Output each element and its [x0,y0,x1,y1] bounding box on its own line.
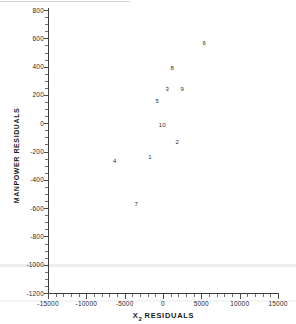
y-axis-major-tick [44,236,49,237]
scan-artifact-line [0,1,130,2]
y-axis-tick-label: 800 [33,7,44,14]
y-axis-major-tick [44,67,49,68]
y-axis-tick-label: -800 [30,233,44,240]
x-axis-minor-tick [109,294,110,297]
y-axis-tick-label: 400 [33,63,44,70]
scatter-point-label-10: 10 [159,122,166,128]
x-axis-minor-tick [71,294,72,297]
y-axis-minor-tick [45,279,48,280]
x-axis-tick-label: -15000 [37,300,58,307]
x-axis-minor-tick [117,294,118,297]
x-axis-minor-tick [102,294,103,297]
scatter-point-label-3: 3 [165,86,169,92]
y-axis-major-tick [44,38,49,39]
x-axis-minor-tick [148,294,149,297]
y-axis-minor-tick [45,102,48,103]
y-axis-tick-label: -200 [30,148,44,155]
y-axis-tick-label: -600 [30,205,44,212]
x-axis-major-tick [278,294,279,299]
x-axis-minor-tick [263,294,264,297]
y-axis-major-tick [44,265,49,266]
y-axis-tick-label: 600 [33,35,44,42]
x-axis-minor-tick [232,294,233,297]
y-axis-minor-tick [45,229,48,230]
x-axis-title-rest: RESIDUALS [145,311,195,320]
x-axis-minor-tick [178,294,179,297]
y-axis-minor-tick [45,286,48,287]
x-axis-tick-label: -10000 [76,300,97,307]
x-axis-tick-label: 0 [161,300,165,307]
y-axis-minor-tick [45,173,48,174]
x-axis-minor-tick [224,294,225,297]
y-axis-minor-tick [45,24,48,25]
x-axis-minor-tick [79,294,80,297]
y-axis-minor-tick [45,130,48,131]
partial-regression-plot: 8006004002000-200-400-600-800-1000-1200 … [0,0,296,324]
x-axis-tick-label: 15000 [268,300,287,307]
y-axis-tick-label: -1200 [26,290,44,297]
scatter-point-label-8: 8 [170,65,174,71]
x-axis-title-subscript: 2 [138,316,141,322]
y-axis-title: MANPOWER RESIDUALS [13,96,20,216]
y-axis-minor-tick [45,201,48,202]
x-axis-minor-tick [270,294,271,297]
x-axis-minor-tick [209,294,210,297]
y-axis-minor-tick [45,31,48,32]
scatter-point-label-7: 7 [134,201,138,207]
y-axis-minor-tick [45,60,48,61]
y-axis-major-tick [44,123,49,124]
y-axis-minor-tick [45,258,48,259]
y-axis-minor-tick [45,81,48,82]
x-axis-minor-tick [140,294,141,297]
y-axis-minor-tick [45,166,48,167]
y-axis-minor-tick [45,137,48,138]
y-axis-minor-tick [45,251,48,252]
y-axis-minor-tick [45,109,48,110]
y-axis-major-tick [44,180,49,181]
x-axis-major-tick [163,294,164,299]
y-axis-tick-label: -1000 [26,261,44,268]
y-axis-major-tick [44,95,49,96]
y-axis-minor-tick [45,144,48,145]
y-axis-minor-tick [45,187,48,188]
x-axis-minor-tick [94,294,95,297]
y-axis-tick-label: 0 [40,120,44,127]
y-axis-major-tick [44,10,49,11]
x-axis-minor-tick [56,294,57,297]
scatter-point-label-5: 5 [156,98,160,104]
scatter-point-label-1: 1 [148,154,152,160]
x-axis-major-tick [48,294,49,299]
y-axis-tick-label: 200 [33,91,44,98]
y-axis-minor-tick [45,74,48,75]
x-axis-minor-tick [186,294,187,297]
y-axis-minor-tick [45,194,48,195]
x-axis-major-tick [86,294,87,299]
x-axis-minor-tick [171,294,172,297]
x-axis-tick-label: 10000 [230,300,249,307]
y-axis-major-tick [44,152,49,153]
y-axis-minor-tick [45,244,48,245]
scatter-point-label-6: 6 [203,40,207,46]
y-axis-major-tick [44,208,49,209]
y-axis-minor-tick [45,159,48,160]
y-axis-minor-tick [45,222,48,223]
x-axis-minor-tick [63,294,64,297]
y-axis-minor-tick [45,116,48,117]
y-axis-minor-tick [45,88,48,89]
scatter-point-label-2: 2 [175,139,179,145]
x-axis-title: X2 RESIDUALS [48,311,279,322]
scatter-point-label-9: 9 [180,86,184,92]
y-axis-minor-tick [45,53,48,54]
x-axis-tick-label: 5000 [194,300,209,307]
x-axis-minor-tick [247,294,248,297]
y-axis-minor-tick [45,272,48,273]
x-axis-minor-tick [255,294,256,297]
x-axis-minor-tick [194,294,195,297]
x-axis-major-tick [201,294,202,299]
x-axis-minor-tick [132,294,133,297]
scatter-point-label-4: 4 [113,158,117,164]
y-axis-tick-label: -400 [30,176,44,183]
y-axis-minor-tick [45,215,48,216]
x-axis-tick-label: -5000 [116,300,134,307]
x-axis-major-tick [125,294,126,299]
